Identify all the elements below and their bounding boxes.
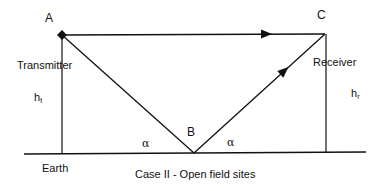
transmitter-label: Transmitter: [17, 60, 72, 71]
incident-ray-line: [62, 35, 194, 153]
transmitter-height-label: ht: [34, 92, 42, 104]
direct-ray-line: [62, 34, 325, 35]
hr-subscript: r: [357, 93, 359, 100]
point-b-label: B: [187, 126, 195, 138]
diagram-caption: Case II - Open field sites: [135, 169, 255, 180]
receiver-label: Receiver: [313, 57, 356, 68]
direct-ray-arrow-icon: [261, 30, 272, 39]
incidence-angle-label: α: [142, 138, 149, 149]
reflection-angle-label: α: [227, 137, 234, 148]
point-c-label: C: [317, 9, 326, 21]
reflected-ray-line: [194, 34, 325, 153]
ht-subscript: t: [40, 97, 42, 104]
point-a-label: A: [45, 12, 53, 24]
earth-label: Earth: [42, 163, 68, 174]
receiver-height-label: hr: [351, 88, 359, 100]
